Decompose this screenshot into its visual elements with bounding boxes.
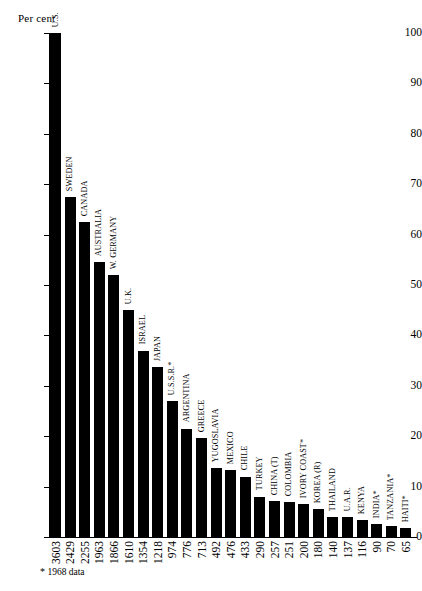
- bar: [357, 520, 368, 537]
- bar-category-label: ISRAEL: [139, 315, 147, 344]
- bar-group: ISRAEL: [138, 33, 149, 537]
- bar-group: TURKEY: [254, 33, 265, 537]
- bar-category-label: KENYA: [358, 486, 366, 514]
- bar-group: JAPAN: [152, 33, 163, 537]
- bar-category-label: CHILE: [242, 446, 250, 471]
- bar-category-label: GREECE: [198, 399, 206, 431]
- bar-category-label: THAILAND: [329, 468, 337, 511]
- bar-category-label: IVORY COAST*: [300, 439, 308, 498]
- bar: [94, 262, 105, 537]
- footnote-asterisk: *: [40, 566, 45, 577]
- x-axis-value-text: 200: [298, 541, 310, 558]
- bar-group: KENYA: [357, 33, 368, 537]
- bar-group: IVORY COAST*: [298, 33, 309, 537]
- bar-category-label: YUGOSLAVIA: [212, 408, 220, 462]
- bar: [327, 517, 338, 537]
- bar: [167, 401, 178, 537]
- bar-group: CANADA: [79, 33, 90, 537]
- bar: [313, 509, 324, 537]
- bar-category-label: U.K.: [125, 288, 133, 304]
- bar: [50, 33, 61, 537]
- footnote-text: 1968 data: [47, 567, 84, 577]
- bar: [284, 502, 295, 537]
- x-axis-value-text: 713: [196, 541, 208, 558]
- bar-group: CHINA (T): [269, 33, 280, 537]
- x-axis-value-text: 1963: [94, 541, 106, 564]
- x-axis-value-text: 180: [313, 541, 325, 558]
- bar-group: AUSTRALIA: [94, 33, 105, 537]
- bar: [138, 351, 149, 537]
- bar-category-label: SWEDEN: [66, 156, 74, 191]
- x-axis-value-text: 140: [327, 541, 339, 558]
- bar: [79, 222, 90, 537]
- bar: [65, 197, 76, 537]
- bar-group: COLOMBIA: [284, 33, 295, 537]
- bar-category-label: CHINA (T): [271, 456, 279, 495]
- y-axis-tick: [44, 537, 50, 538]
- bar-category-label: MEXICO: [227, 432, 235, 465]
- bar-category-label: U.S.S.R.*: [169, 361, 177, 395]
- bar: [269, 501, 280, 537]
- bar-group: KOREA (R): [313, 33, 324, 537]
- x-axis-value-text: 2255: [79, 541, 91, 564]
- bar-category-label: AUSTRALIA: [96, 209, 104, 256]
- bar: [342, 517, 353, 537]
- bar-group: YUGOSLAVIA: [211, 33, 222, 537]
- bar: [254, 497, 265, 537]
- x-axis-value-text: 492: [211, 541, 223, 558]
- x-axis-value-text: 3603: [50, 541, 62, 564]
- bar-category-label: CANADA: [81, 180, 89, 216]
- plot-area: U.S.SWEDENCANADAAUSTRALIAW. GERMANYU.K.I…: [50, 33, 417, 537]
- bar: [196, 438, 207, 537]
- x-axis-value-text: 257: [269, 541, 281, 558]
- bar-category-label: W. GERMANY: [110, 215, 118, 268]
- x-axis-value-text: 116: [357, 541, 369, 558]
- bar: [211, 468, 222, 537]
- x-axis-value-text: 433: [240, 541, 252, 558]
- x-axis-value-text: 90: [371, 541, 383, 553]
- bar-group: HAITI*: [400, 33, 411, 537]
- bar: [108, 275, 119, 537]
- bar-group: U.S.S.R.*: [167, 33, 178, 537]
- bar-category-label: COLOMBIA: [285, 451, 293, 495]
- bar-category-label: U.A.R.: [344, 487, 352, 511]
- x-axis-value-text: 290: [254, 541, 266, 558]
- bar: [400, 528, 411, 537]
- x-axis-value-text: 1354: [138, 541, 150, 564]
- x-axis-value-text: 65: [400, 541, 412, 553]
- bar-category-label: KOREA (R): [315, 462, 323, 504]
- bar-group: U.S.: [50, 33, 61, 537]
- footnote: * 1968 data: [40, 566, 85, 577]
- bar: [152, 367, 163, 537]
- bar-group: INDIA*: [371, 33, 382, 537]
- bar-group: U.A.R.: [342, 33, 353, 537]
- bar: [298, 504, 309, 537]
- x-axis-value-text: 137: [342, 541, 354, 558]
- bar-category-label: INDIA*: [373, 490, 381, 518]
- bar-category-label: HAITI*: [402, 495, 410, 522]
- bar-group: SWEDEN: [65, 33, 76, 537]
- x-axis-value-text: 476: [225, 541, 237, 558]
- bar-group: THAILAND: [327, 33, 338, 537]
- x-axis-value-text: 1610: [123, 541, 135, 564]
- x-axis-value-text: 251: [284, 541, 296, 558]
- bar-group: U.K.: [123, 33, 134, 537]
- bar-group: GREECE: [196, 33, 207, 537]
- bar-category-label: ARGENTINA: [183, 374, 191, 423]
- x-axis-value-text: 1866: [108, 541, 120, 564]
- x-axis-line: [49, 537, 417, 538]
- y-axis-title: Per cent: [18, 12, 55, 24]
- bar: [181, 429, 192, 537]
- bar: [225, 470, 236, 537]
- bar-category-label: TANZANIA*: [388, 473, 396, 520]
- bar-category-label: TURKEY: [256, 457, 264, 491]
- bar-group: MEXICO: [225, 33, 236, 537]
- bar-chart: Per cent 0102030405060708090100 U.S.SWED…: [0, 0, 422, 591]
- bar-group: TANZANIA*: [386, 33, 397, 537]
- bar-category-label: U.S.: [52, 12, 60, 27]
- x-axis-value-text: 70: [386, 541, 398, 553]
- bar: [240, 477, 251, 537]
- bar-category-label: JAPAN: [154, 336, 162, 361]
- bar: [371, 524, 382, 537]
- x-axis-value-text: 974: [167, 541, 179, 558]
